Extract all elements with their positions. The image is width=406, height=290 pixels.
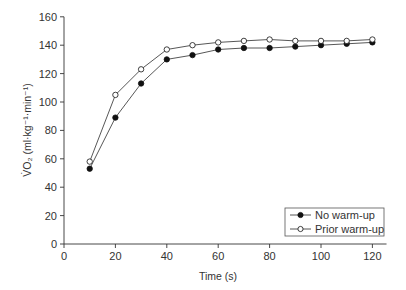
open-circle-marker-icon: [318, 38, 323, 43]
y-axis-title: V̇O₂ (ml·kg⁻¹·min⁻¹): [21, 83, 33, 176]
open-circle-marker-icon: [216, 40, 221, 45]
legend-label: No warm-up: [315, 209, 375, 221]
open-circle-marker-icon: [113, 92, 118, 97]
y-tick-label: 60: [45, 153, 57, 165]
y-tick-label: 100: [39, 96, 57, 108]
x-tick-label: 0: [61, 250, 67, 262]
filled-circle-marker-icon: [293, 44, 298, 49]
y-tick-label: 120: [39, 68, 57, 80]
x-axis: 020406080100120: [61, 244, 387, 262]
y-tick-label: 140: [39, 39, 57, 51]
vo2-line-chart: 020406080100120140160 020406080100120 Ti…: [0, 0, 406, 290]
x-tick-label: 20: [109, 250, 121, 262]
x-tick-label: 40: [161, 250, 173, 262]
series-line: [90, 42, 373, 168]
open-circle-marker-icon: [293, 38, 298, 43]
filled-circle-marker-icon: [241, 45, 246, 50]
filled-circle-marker-icon: [87, 166, 92, 171]
open-circle-marker-icon: [138, 67, 143, 72]
series-layer: [87, 37, 375, 172]
x-tick-label: 80: [263, 250, 275, 262]
filled-circle-marker-icon: [164, 57, 169, 62]
open-circle-marker-icon: [164, 47, 169, 52]
series-line: [90, 40, 373, 162]
x-tick-label: 120: [363, 250, 381, 262]
legend-label: Prior warm-up: [315, 223, 384, 235]
chart-container: 020406080100120140160 020406080100120 Ti…: [0, 0, 406, 290]
x-tick-label: 60: [212, 250, 224, 262]
y-tick-label: 20: [45, 210, 57, 222]
filled-circle-marker-icon: [298, 212, 303, 217]
open-circle-marker-icon: [298, 226, 303, 231]
open-circle-marker-icon: [190, 43, 195, 48]
y-axis: 020406080100120140160: [39, 11, 64, 250]
open-circle-marker-icon: [241, 38, 246, 43]
filled-circle-marker-icon: [216, 47, 221, 52]
y-tick-label: 0: [51, 238, 57, 250]
open-circle-marker-icon: [370, 37, 375, 42]
filled-circle-marker-icon: [267, 45, 272, 50]
y-tick-label: 80: [45, 124, 57, 136]
open-circle-marker-icon: [267, 37, 272, 42]
open-circle-marker-icon: [344, 38, 349, 43]
y-tick-label: 160: [39, 11, 57, 23]
series-no-warm-up: [87, 40, 375, 172]
filled-circle-marker-icon: [190, 52, 195, 57]
legend: No warm-up Prior warm-up: [285, 208, 384, 236]
x-tick-label: 100: [312, 250, 330, 262]
open-circle-marker-icon: [87, 159, 92, 164]
y-tick-label: 40: [45, 181, 57, 193]
x-axis-title: Time (s): [199, 270, 237, 282]
filled-circle-marker-icon: [138, 81, 143, 86]
filled-circle-marker-icon: [113, 115, 118, 120]
series-prior-warm-up: [87, 37, 375, 165]
